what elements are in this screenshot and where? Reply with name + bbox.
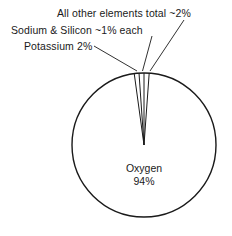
slice-label-oxygen: Oxygen 94% — [104, 162, 184, 187]
pie-chart-figure: All other elements total ~2% Sodium & Si… — [0, 0, 232, 236]
leader-line-potassium — [94, 46, 137, 71]
annotation-label-all-other-elements: All other elements total ~2% — [57, 7, 191, 19]
slice-label-oxygen-name: Oxygen — [126, 162, 162, 174]
slice-label-oxygen-value: 94% — [104, 175, 184, 188]
annotation-label-potassium: Potassium 2% — [24, 40, 92, 52]
annotation-label-sodium-silicon: Sodium & Silicon ~1% each — [11, 24, 143, 36]
leader-line-all-other — [150, 20, 184, 71]
leader-line-sodium-silicon — [143, 36, 153, 71]
